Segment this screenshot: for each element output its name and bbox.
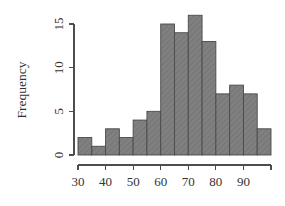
histogram-bar	[119, 138, 133, 155]
y-axis	[69, 24, 74, 155]
y-tick-label: 5	[51, 108, 66, 115]
histogram-bar	[78, 138, 92, 155]
histogram-bar	[202, 41, 216, 155]
histogram-bar	[92, 146, 106, 155]
histogram-plot: 051015 30405060708090 Frequency	[0, 0, 285, 206]
histogram-bar	[133, 120, 147, 155]
x-tick-label: 60	[154, 174, 167, 189]
x-tick-label: 50	[127, 174, 140, 189]
x-tick-label: 40	[99, 174, 112, 189]
x-tick-label: 30	[72, 174, 85, 189]
x-tick-labels: 30405060708090	[72, 174, 250, 189]
histogram-bar	[147, 111, 161, 155]
y-tick-label: 10	[51, 61, 66, 74]
y-tick-label: 0	[51, 152, 66, 159]
x-axis	[78, 165, 271, 170]
histogram-bar	[243, 94, 257, 155]
histogram-bar	[175, 33, 189, 155]
histogram-bar	[106, 129, 120, 155]
histogram-bar	[216, 94, 230, 155]
histogram-svg: 051015 30405060708090 Frequency	[0, 0, 285, 206]
histogram-bar	[188, 15, 202, 155]
histogram-bar	[230, 85, 244, 155]
x-tick-label: 70	[182, 174, 195, 189]
y-axis-title: Frequency	[14, 61, 29, 118]
y-tick-label: 15	[51, 18, 66, 31]
y-tick-labels: 051015	[51, 18, 66, 159]
histogram-bar	[161, 24, 175, 155]
bars-group	[78, 15, 271, 155]
histogram-bar	[257, 129, 271, 155]
x-tick-label: 80	[209, 174, 222, 189]
x-tick-label: 90	[237, 174, 250, 189]
